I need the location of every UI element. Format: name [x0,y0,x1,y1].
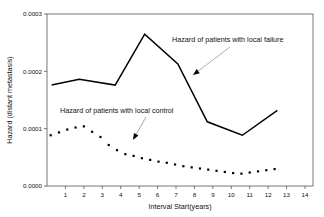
series-local-control-marker [182,165,184,167]
series-local-control-marker [133,155,135,157]
y-tick-label-3: 0.0003 [23,10,42,17]
series-local-control-marker [232,172,234,174]
x-tick-label-14: 14 [302,191,309,198]
series-local-control-marker [124,153,126,155]
x-tick-label-12: 12 [265,191,272,198]
series-local-control-marker [215,170,217,172]
annotation-local-control-label: Hazard of patients with local control [60,106,174,115]
series-local-control-marker [66,128,68,130]
series-local-control-marker [91,131,93,133]
series-local-control-marker [174,163,176,165]
x-tick-label-7: 7 [174,191,178,198]
hazard-line-chart: 0.0000 0.0001 0.0002 0.0003 1 2 3 4 [0,0,324,217]
series-local-control-marker [157,161,159,163]
x-tick-label-5: 5 [137,191,141,198]
x-tick-label-11: 11 [246,191,253,198]
series-local-control-marker [240,173,242,175]
x-tick-label-2: 2 [82,191,86,198]
series-local-control-marker [257,170,259,172]
y-tick-label-2: 0.0002 [23,68,42,75]
series-local-control-marker [224,171,226,173]
series-local-control-marker [265,169,267,171]
series-local-control-marker [273,168,275,170]
x-axis-title: Interval Start(years) [148,202,211,211]
y-axis-title: Hazard (distant metastasis) [5,56,14,143]
x-tick-label-9: 9 [211,191,215,198]
x-tick-label-4: 4 [119,191,123,198]
series-local-control-marker [50,134,52,136]
x-tick-label-10: 10 [228,191,235,198]
series-local-control-marker [166,162,168,164]
x-tick-label-1: 1 [64,191,68,198]
series-local-control-marker [74,126,76,128]
series-local-control-marker [116,149,118,151]
annotation-local-failure-label: Hazard of patients with local failure [172,35,283,44]
chart-figure: 0.0000 0.0001 0.0002 0.0003 1 2 3 4 [0,0,324,217]
x-tick-label-8: 8 [193,191,197,198]
series-local-control-marker [58,131,60,133]
series-local-control-marker [141,157,143,159]
series-local-control-marker [199,167,201,169]
x-tick-label-3: 3 [101,191,105,198]
series-local-control-marker [83,125,85,127]
y-tick-label-1: 0.0001 [23,125,42,132]
series-local-control-marker [249,171,251,173]
y-tick-label-0: 0.0000 [23,182,42,189]
series-local-control-marker [191,166,193,168]
series-local-control-marker [99,136,101,138]
series-local-control-marker [108,144,110,146]
x-tick-label-6: 6 [156,191,160,198]
x-tick-label-13: 13 [283,191,290,198]
series-local-control-marker [149,159,151,161]
series-local-control-marker [207,169,209,171]
